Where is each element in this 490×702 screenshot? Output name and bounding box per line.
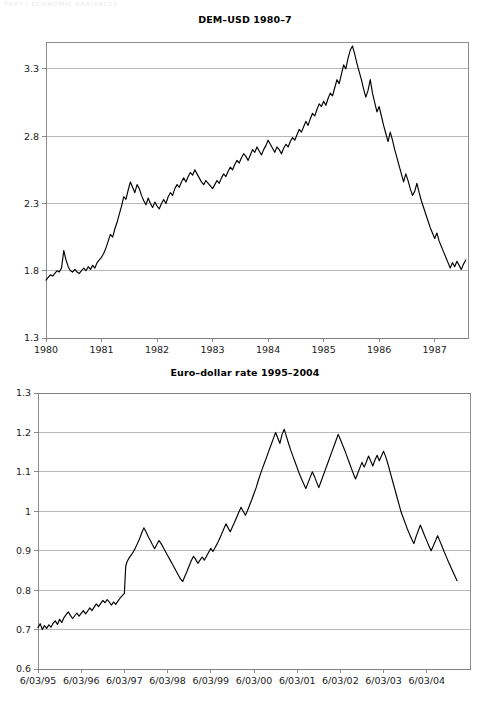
figure-euro-dollar: Euro–dollar rate 1995–2004 0.60.70.80.91… bbox=[0, 364, 490, 702]
svg-text:6/03/96: 6/03/96 bbox=[63, 675, 100, 686]
svg-text:0.9: 0.9 bbox=[16, 545, 31, 556]
svg-text:6/03/03: 6/03/03 bbox=[365, 675, 402, 686]
figure-dem-usd: DEM–USD 1980–7 1.31.82.32.83.31980198119… bbox=[0, 10, 490, 362]
svg-text:6/03/99: 6/03/99 bbox=[192, 675, 229, 686]
svg-text:1983: 1983 bbox=[200, 344, 224, 355]
svg-text:6/03/02: 6/03/02 bbox=[322, 675, 359, 686]
svg-text:6/03/00: 6/03/00 bbox=[236, 675, 273, 686]
svg-text:1.3: 1.3 bbox=[16, 387, 31, 398]
svg-text:0.7: 0.7 bbox=[16, 624, 31, 635]
svg-text:2.8: 2.8 bbox=[24, 131, 39, 142]
svg-text:6/03/97: 6/03/97 bbox=[106, 675, 143, 686]
running-head: PART I ECONOMIC VARIABLES bbox=[4, 0, 118, 7]
svg-text:1986: 1986 bbox=[367, 344, 391, 355]
svg-text:6/03/98: 6/03/98 bbox=[149, 675, 186, 686]
svg-text:1982: 1982 bbox=[145, 344, 169, 355]
svg-text:0.8: 0.8 bbox=[16, 585, 31, 596]
svg-text:2.3: 2.3 bbox=[24, 198, 39, 209]
svg-text:6/03/01: 6/03/01 bbox=[279, 675, 316, 686]
chart-dem-usd: 1.31.82.32.83.31980198119821983198419851… bbox=[0, 26, 490, 361]
svg-text:1985: 1985 bbox=[312, 344, 336, 355]
svg-text:1.8: 1.8 bbox=[24, 265, 39, 276]
plot-area-dem-usd: 1.31.82.32.83.31980198119821983198419851… bbox=[0, 26, 490, 361]
svg-text:6/03/04: 6/03/04 bbox=[408, 675, 445, 686]
svg-text:6/03/95: 6/03/95 bbox=[20, 675, 57, 686]
svg-text:1: 1 bbox=[25, 506, 31, 517]
svg-text:1984: 1984 bbox=[256, 344, 280, 355]
chart-title-euro-dollar: Euro–dollar rate 1995–2004 bbox=[0, 364, 490, 379]
chart-euro-dollar: 0.60.70.80.911.11.21.36/03/956/03/966/03… bbox=[0, 379, 490, 699]
svg-text:1.2: 1.2 bbox=[16, 427, 31, 438]
svg-text:1.1: 1.1 bbox=[16, 466, 31, 477]
svg-text:1.3: 1.3 bbox=[24, 332, 39, 343]
svg-text:1981: 1981 bbox=[89, 344, 113, 355]
chart-title-dem-usd: DEM–USD 1980–7 bbox=[0, 10, 490, 26]
svg-text:1987: 1987 bbox=[423, 344, 447, 355]
figure-page: PART I ECONOMIC VARIABLES DEM–USD 1980–7… bbox=[0, 0, 490, 702]
plot-area-euro-dollar: 0.60.70.80.911.11.21.36/03/956/03/966/03… bbox=[0, 379, 490, 699]
svg-text:1980: 1980 bbox=[34, 344, 58, 355]
svg-text:3.3: 3.3 bbox=[24, 63, 39, 74]
svg-text:0.6: 0.6 bbox=[16, 663, 31, 674]
